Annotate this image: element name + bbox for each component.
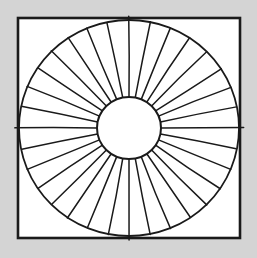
- sector-spoke: [161, 127, 244, 128]
- center-hub-circle: [97, 97, 161, 159]
- sunburst-figure: [0, 0, 257, 258]
